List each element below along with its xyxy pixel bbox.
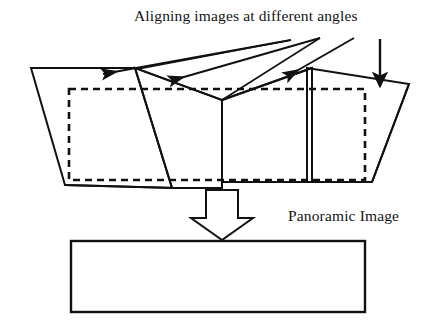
panoramic-image-label: Panoramic Image xyxy=(288,207,399,225)
pointer-fan-tail-1 xyxy=(138,40,291,69)
diagram-canvas xyxy=(0,0,442,333)
panorama-block-arrow xyxy=(191,190,253,240)
panoramic-output-rectangle xyxy=(71,241,365,312)
source-quad-3 xyxy=(222,68,312,182)
source-image-group xyxy=(31,68,409,188)
panorama-stitching-figure: Aligning images at different angles Pano… xyxy=(0,0,442,333)
figure-title: Aligning images at different angles xyxy=(134,7,358,25)
